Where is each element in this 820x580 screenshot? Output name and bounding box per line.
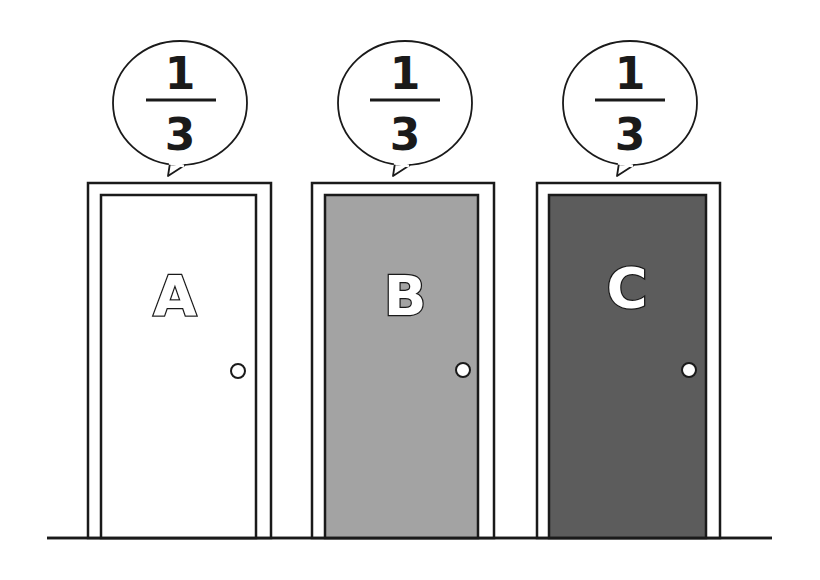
door-panel-b[interactable] xyxy=(325,195,478,538)
door-knob-c xyxy=(682,363,696,377)
speech-bubble-b: 1 3 xyxy=(338,41,472,176)
door-c-group[interactable]: 1 3 C xyxy=(537,41,720,538)
probability-numerator-b: 1 xyxy=(390,48,421,99)
probability-numerator-a: 1 xyxy=(165,48,196,99)
door-b-group[interactable]: 1 3 B xyxy=(312,41,494,538)
speech-bubble-c: 1 3 xyxy=(563,41,697,176)
door-a-group[interactable]: 1 3 A xyxy=(88,41,271,538)
speech-bubble-a: 1 3 xyxy=(113,41,247,176)
probability-denominator-b: 3 xyxy=(390,109,421,160)
monty-hall-doors-illustration: 1 3 A 1 3 B 1 3 xyxy=(0,0,820,580)
probability-denominator-c: 3 xyxy=(615,109,646,160)
door-label-b: B xyxy=(384,263,427,328)
probability-numerator-c: 1 xyxy=(615,48,646,99)
door-knob-a xyxy=(231,364,245,378)
probability-denominator-a: 3 xyxy=(165,109,196,160)
door-label-c: C xyxy=(606,255,647,320)
door-label-a: A xyxy=(153,263,197,328)
door-knob-b xyxy=(456,363,470,377)
